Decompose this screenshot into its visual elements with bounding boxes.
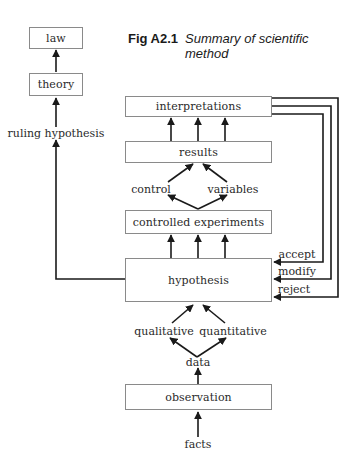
results-box: results bbox=[125, 141, 272, 163]
arrow-accept-loop bbox=[272, 114, 323, 262]
interpretations-label: interpretations bbox=[156, 100, 241, 113]
law-box: law bbox=[29, 27, 83, 49]
facts-label: facts bbox=[185, 438, 212, 451]
qualitative-label: qualitative bbox=[134, 325, 193, 338]
modify-label: modify bbox=[278, 265, 316, 278]
controlled-experiments-box: controlled experiments bbox=[125, 210, 272, 234]
figure-title: Summary of scientific method bbox=[185, 31, 355, 61]
arrow-data-to-qual bbox=[170, 338, 197, 357]
observation-label: observation bbox=[165, 391, 232, 404]
arrow-control-to-results bbox=[168, 164, 193, 182]
theory-box: theory bbox=[29, 73, 83, 96]
scientific-method-diagram: Fig A2.1 Summary of scientific method la… bbox=[0, 0, 355, 472]
hypothesis-label: hypothesis bbox=[168, 274, 229, 287]
interpretations-box: interpretations bbox=[125, 96, 272, 117]
observation-box: observation bbox=[125, 384, 272, 410]
arrow-variables-to-results bbox=[203, 164, 227, 182]
results-label: results bbox=[179, 146, 218, 159]
accept-label: accept bbox=[279, 248, 316, 261]
arrow-quant-to-hyp bbox=[203, 305, 225, 323]
variables-label: variables bbox=[208, 183, 259, 196]
arrow-ce-to-control bbox=[168, 195, 198, 209]
ruling-hypothesis-label: ruling hypothesis bbox=[8, 127, 105, 140]
hypothesis-box: hypothesis bbox=[125, 258, 272, 302]
arrow-qual-to-hyp bbox=[172, 305, 193, 323]
controlled-experiments-label: controlled experiments bbox=[133, 216, 265, 229]
figure-number: Fig A2.1 bbox=[128, 31, 178, 46]
data-label: data bbox=[186, 356, 211, 369]
theory-label: theory bbox=[38, 78, 75, 91]
arrow-data-to-quant bbox=[197, 338, 226, 357]
quantitative-label: quantitative bbox=[199, 325, 266, 338]
control-label: control bbox=[131, 183, 171, 196]
law-label: law bbox=[46, 32, 66, 45]
arrow-ce-to-variables bbox=[198, 195, 227, 209]
arrow-hypothesis-to-ruling bbox=[56, 140, 125, 279]
reject-label: reject bbox=[278, 283, 310, 296]
